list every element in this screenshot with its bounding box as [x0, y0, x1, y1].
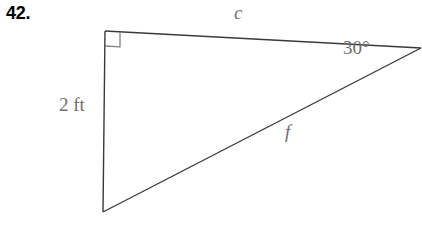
- triangle-figure: 42. c 30° f 2 ft: [0, 0, 422, 225]
- right-angle-marker-icon: [105, 32, 120, 47]
- label-side-f: f: [285, 122, 290, 141]
- label-side-2ft: 2 ft: [59, 95, 85, 114]
- triangle-side-vertical: [103, 31, 105, 212]
- label-side-c: c: [234, 3, 242, 22]
- problem-number: 42.: [6, 4, 30, 22]
- triangle-side-c: [105, 31, 421, 48]
- triangle-side-f: [103, 48, 421, 212]
- label-angle-30: 30°: [343, 38, 370, 57]
